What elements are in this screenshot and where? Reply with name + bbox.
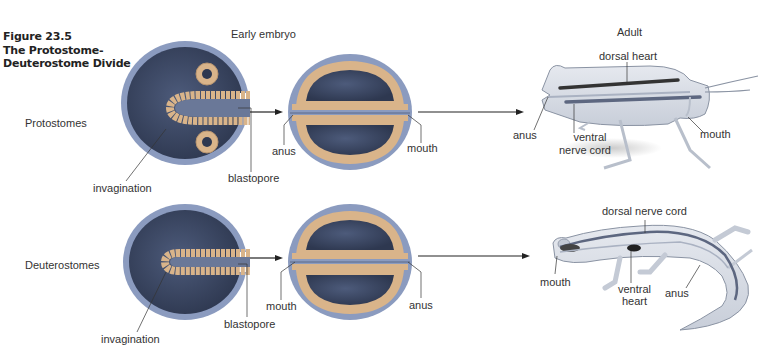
label-deutero-adult-anus: anus	[665, 287, 689, 299]
deuterostome-embryo	[281, 204, 421, 320]
label-ventral-heart-line2: heart	[618, 295, 651, 307]
salamander-adult	[553, 220, 752, 330]
label-dorsal-nerve-cord: dorsal nerve cord	[602, 205, 687, 217]
label-proto-blastopore: blastopore	[228, 172, 279, 184]
label-proto-adult-mouth: mouth	[700, 128, 731, 140]
label-ventral-heart: ventral heart	[618, 283, 651, 307]
deuterostome-gastrula	[123, 204, 252, 332]
label-ventral-nerve-cord: ventral nerve cord	[559, 131, 611, 157]
label-ventral-heart-line1: ventral	[618, 283, 651, 295]
label-dorsal-heart: dorsal heart	[599, 50, 657, 62]
label-deutero-adult-mouth: mouth	[540, 276, 571, 288]
label-ventral-nerve-cord-line2: nerve cord	[559, 144, 611, 157]
label-deutero-embryo-anus: anus	[409, 299, 433, 311]
label-proto-invagination: invagination	[93, 182, 152, 194]
label-proto-adult-anus: anus	[513, 129, 537, 141]
label-deutero-embryo-mouth: mouth	[266, 300, 297, 312]
arrow-deuterostome-2	[418, 253, 530, 259]
diagram-canvas	[0, 0, 780, 355]
arrow-protostome-1	[250, 109, 283, 115]
label-proto-embryo-anus: anus	[272, 145, 296, 157]
arrow-protostome-2	[418, 109, 524, 115]
protostome-gastrula	[121, 41, 252, 181]
label-deutero-invagination: invagination	[101, 333, 160, 345]
label-proto-embryo-mouth: mouth	[407, 142, 438, 154]
protostome-embryo	[284, 54, 421, 170]
arrow-deuterostome-1	[250, 255, 283, 261]
label-deutero-blastopore: blastopore	[224, 318, 275, 330]
label-ventral-nerve-cord-line1: ventral	[569, 131, 611, 144]
